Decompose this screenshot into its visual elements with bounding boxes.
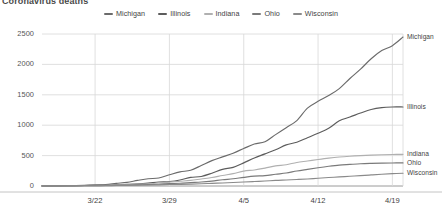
x-tick-label: 4/19 xyxy=(372,196,412,205)
x-tick-label: 3/22 xyxy=(75,196,115,205)
y-tick-label: 0 xyxy=(0,181,34,190)
y-tick-label: 1500 xyxy=(0,90,34,99)
plot-area xyxy=(0,0,442,210)
series-line-michigan[interactable] xyxy=(42,37,403,186)
series-end-label-illinois: Illinois xyxy=(407,103,426,110)
series-end-label-michigan: Michigan xyxy=(407,33,434,40)
series-line-indiana[interactable] xyxy=(42,154,403,186)
series-line-illinois[interactable] xyxy=(42,107,403,186)
y-tick-label: 2000 xyxy=(0,59,34,68)
coronavirus-deaths-line-chart: Coronavirus deaths MichiganIllinoisIndia… xyxy=(0,0,442,210)
series-end-label-wisconsin: Wisconsin xyxy=(407,169,438,176)
y-tick-label: 2500 xyxy=(0,29,34,38)
x-tick-label: 4/12 xyxy=(298,196,338,205)
series-end-label-indiana: Indiana xyxy=(407,150,429,157)
y-tick-label: 1000 xyxy=(0,120,34,129)
y-tick-label: 500 xyxy=(0,151,34,160)
series-end-label-ohio: Ohio xyxy=(407,159,421,166)
x-tick-label: 4/5 xyxy=(224,196,264,205)
x-tick-label: 3/29 xyxy=(149,196,189,205)
